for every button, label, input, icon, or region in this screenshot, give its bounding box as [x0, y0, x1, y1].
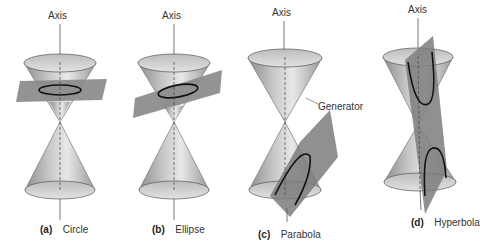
- panel-caption: (a) Circle: [40, 219, 89, 236]
- caption-letter: (c): [258, 229, 270, 240]
- panel-hyperbola: Axis (d) Hyperbola: [383, 4, 480, 229]
- axis-label: Axis: [48, 10, 67, 21]
- axis-label: Axis: [272, 7, 291, 18]
- caption-name: Circle: [63, 224, 89, 235]
- axis-line: [420, 190, 421, 210]
- panel-caption: (c) Parabola: [258, 224, 321, 241]
- caption-letter: (d): [411, 217, 424, 228]
- caption-name: Parabola: [281, 229, 321, 240]
- generator-label: Generator: [318, 101, 364, 112]
- caption-name: Hyperbola: [434, 217, 480, 228]
- panel-caption: (b) Ellipse: [152, 219, 205, 236]
- caption-letter: (b): [152, 224, 165, 235]
- caption-name: Ellipse: [175, 224, 205, 235]
- axis-label: Axis: [162, 10, 181, 21]
- generator-pointer: [306, 98, 318, 104]
- cutting-plane: [16, 79, 107, 102]
- panel-parabola: Axis Generator (c) Parabola: [248, 7, 364, 241]
- panel-circle: Axis (a) Circle: [16, 10, 107, 236]
- panel-ellipse: Axis (b) Ellipse: [133, 10, 222, 236]
- axis-label: Axis: [408, 4, 427, 15]
- caption-letter: (a): [40, 224, 52, 235]
- conic-sections-diagram: Axis (a) Circle Axis (b: [0, 0, 480, 247]
- panel-caption: (d) Hyperbola: [411, 212, 480, 229]
